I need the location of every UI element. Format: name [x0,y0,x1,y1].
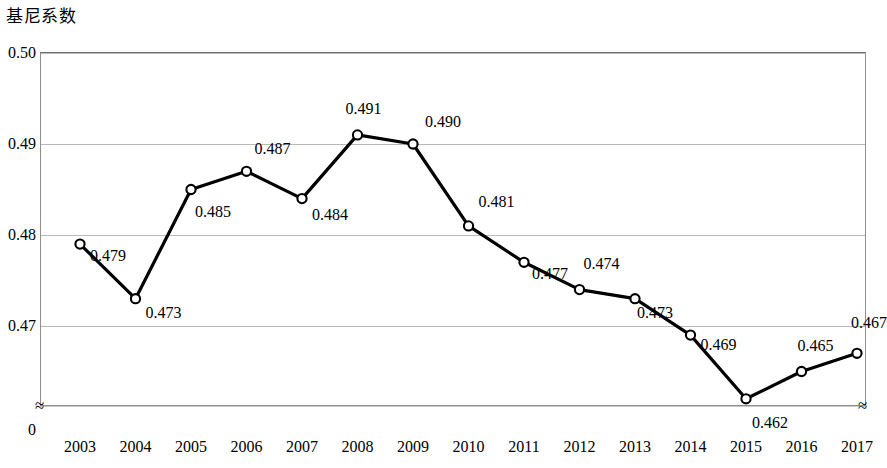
data-point-marker [186,185,195,194]
xtick-label-2006: 2006 [231,438,263,456]
gini-series-markers [75,130,861,403]
data-label-2014: 0.469 [701,336,737,354]
xtick-label-2016: 2016 [786,438,818,456]
data-label-2013: 0.473 [637,304,673,322]
xtick-label-2008: 2008 [342,438,374,456]
xtick-label-2013: 2013 [619,438,651,456]
data-point-marker [686,331,695,340]
xtick-label-2009: 2009 [397,438,429,456]
xtick-label-2007: 2007 [286,438,318,456]
data-point-marker [297,194,306,203]
xtick-label-2014: 2014 [675,438,707,456]
data-label-2011: 0.477 [532,265,568,283]
data-point-marker [75,240,84,249]
data-point-marker [242,167,251,176]
data-label-2007: 0.484 [312,206,348,224]
data-point-marker [408,139,417,148]
data-label-2004: 0.473 [146,304,182,322]
x-axis-tick-labels: 2003200420052006200720082009201020112012… [40,438,866,462]
data-label-2008: 0.491 [346,100,382,118]
data-point-marker [741,394,750,403]
data-point-marker [131,294,140,303]
data-label-2006: 0.487 [255,140,291,158]
data-label-2005: 0.485 [195,203,231,221]
xtick-label-2003: 2003 [64,438,96,456]
xtick-label-2011: 2011 [508,438,539,456]
data-point-marker [630,294,639,303]
xtick-label-2004: 2004 [120,438,152,456]
xtick-label-2015: 2015 [730,438,762,456]
data-point-marker [353,130,362,139]
data-point-marker [519,258,528,267]
data-point-marker [797,367,806,376]
xtick-label-2010: 2010 [453,438,485,456]
xtick-label-2017: 2017 [841,438,873,456]
data-label-2012: 0.474 [584,255,620,273]
xtick-label-2005: 2005 [175,438,207,456]
data-point-marker [852,349,861,358]
data-point-marker [575,285,584,294]
xtick-label-2012: 2012 [564,438,596,456]
data-label-2015: 0.462 [752,414,788,432]
data-label-2017: 0.467 [851,314,887,332]
data-label-2003: 0.479 [90,247,126,265]
data-label-2010: 0.481 [479,193,515,211]
gini-series-line [80,135,857,399]
data-label-2016: 0.465 [798,337,834,355]
data-label-2009: 0.490 [425,113,461,131]
data-point-marker [464,221,473,230]
